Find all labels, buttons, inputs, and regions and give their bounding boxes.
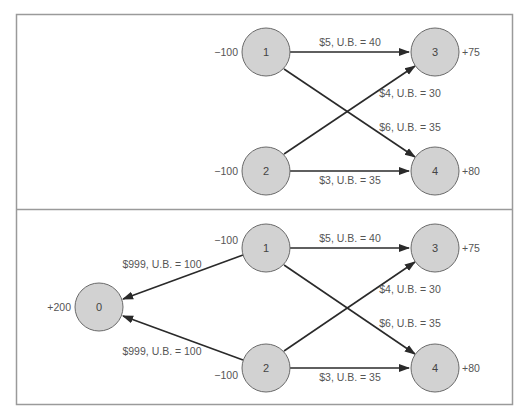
edge-1-to-4 [284, 69, 415, 157]
node-label: 4 [432, 165, 438, 177]
edge-1-to-4 [284, 265, 415, 354]
demand-label-node-4: +80 [462, 362, 480, 374]
node-label: 2 [263, 362, 269, 374]
node-4: 4 [411, 147, 459, 195]
supply-label-node-2: −100 [214, 369, 238, 381]
node-label: 3 [432, 242, 438, 254]
supply-label-node-2: −100 [214, 165, 238, 177]
node-label: 1 [263, 242, 269, 254]
edge-label-1-3: $5, U.B. = 40 [319, 36, 381, 48]
supply-label-node-1: −100 [214, 234, 238, 246]
node-1: 1 [242, 28, 290, 76]
edge-label-1-4: $6, U.B. = 35 [379, 317, 441, 329]
node-1: 1 [242, 224, 290, 272]
node-label: 1 [263, 46, 269, 58]
supply-label-node-1: −100 [214, 46, 238, 58]
edge-2-to-3 [284, 66, 415, 154]
node-label: 3 [432, 46, 438, 58]
node-label: 0 [96, 301, 102, 313]
edge-label-2-4: $3, U.B. = 35 [319, 174, 381, 186]
edge-2-to-3 [284, 262, 415, 351]
edge-label-1-0: $999, U.B. = 100 [122, 258, 201, 270]
edge-label-2-0: $999, U.B. = 100 [122, 345, 201, 357]
node-3: 3 [411, 28, 459, 76]
bottom-panel: $999, U.B. = 100 $999, U.B. = 100 $5, U.… [47, 224, 480, 392]
node-4: 4 [411, 344, 459, 392]
top-panel: $5, U.B. = 40 $4, U.B. = 30 $6, U.B. = 3… [214, 28, 480, 195]
demand-label-node-0: +200 [47, 301, 71, 313]
edge-label-2-3: $4, U.B. = 30 [379, 87, 441, 99]
edge-label-1-3: $5, U.B. = 40 [319, 232, 381, 244]
edge-label-2-4: $3, U.B. = 35 [319, 371, 381, 383]
network-flow-diagram: $5, U.B. = 40 $4, U.B. = 30 $6, U.B. = 3… [0, 0, 524, 416]
node-label: 4 [432, 362, 438, 374]
demand-label-node-3: +75 [462, 242, 480, 254]
demand-label-node-3: +75 [462, 46, 480, 58]
node-3: 3 [411, 224, 459, 272]
edge-label-1-4: $6, U.B. = 35 [379, 121, 441, 133]
node-2: 2 [242, 147, 290, 195]
node-label: 2 [263, 165, 269, 177]
node-2: 2 [242, 344, 290, 392]
demand-label-node-4: +80 [462, 165, 480, 177]
edge-label-2-3: $4, U.B. = 30 [379, 283, 441, 295]
node-0: 0 [75, 283, 123, 331]
